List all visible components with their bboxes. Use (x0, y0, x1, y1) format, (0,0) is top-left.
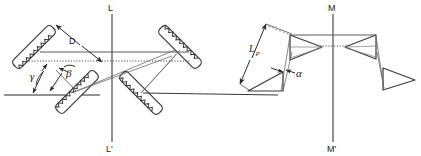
optics-diagram: L L' (0, 0, 421, 156)
label-alpha: α (296, 67, 302, 79)
label-Lp-base: L (248, 43, 255, 54)
axis-label-L: L (108, 3, 113, 13)
label-gamma: γ (30, 70, 35, 82)
label-Lp-subscript: p (255, 49, 260, 57)
label-D: D (69, 36, 76, 46)
axis-label-M-prime: M' (327, 144, 336, 154)
label-beta: β (65, 67, 72, 79)
axis-label-M: M (328, 3, 336, 13)
axis-label-L-prime: L' (106, 144, 113, 154)
